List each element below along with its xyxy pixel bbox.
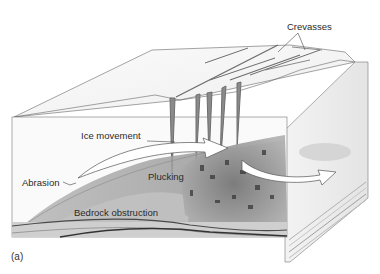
glacier-diagram <box>0 0 380 274</box>
abrasion-label: Abrasion <box>22 178 60 188</box>
ice-movement-label: Ice movement <box>81 131 141 141</box>
block-right-face <box>285 62 368 262</box>
crevasses-label: Crevasses <box>287 22 332 32</box>
panel-label: (a) <box>11 252 23 262</box>
plucking-label: Plucking <box>148 172 184 182</box>
bedrock-obstruction-label: Bedrock obstruction <box>74 208 158 218</box>
